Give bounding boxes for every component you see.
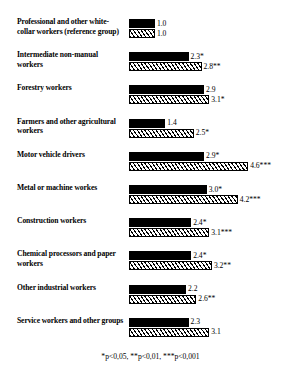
bar-hatched xyxy=(129,129,194,138)
bar-value-hatched: 2.5* xyxy=(196,128,209,138)
category-label: Farmers and other agricultural workers xyxy=(17,117,125,136)
chart-row: Intermediate non-manual workers2.3*2.8** xyxy=(0,50,301,83)
significance-footnote: *p<0,05, **p<0,01, ***p<0,001 xyxy=(0,352,301,361)
bar-value-hatched: 2.8** xyxy=(204,62,221,72)
bar-value-hatched: 4.2*** xyxy=(240,195,261,205)
bar-solid xyxy=(129,251,191,260)
chart-row: Service workers and other groups2.33.1 xyxy=(0,316,301,349)
bar-value-solid: 2.4* xyxy=(193,218,206,228)
bar-chart: Professional and other white-collar work… xyxy=(0,0,301,381)
bar-solid xyxy=(129,285,186,294)
bar-value-hatched: 3.1*** xyxy=(211,228,232,238)
bar-hatched xyxy=(129,62,202,71)
bar-value-solid: 2.3 xyxy=(191,317,201,327)
bar-value-hatched: 3.1 xyxy=(211,327,221,337)
bar-hatched xyxy=(129,162,248,171)
bar-value-hatched: 2.6** xyxy=(198,294,215,304)
chart-row: Metal or machine workes3.0*4.2*** xyxy=(0,183,301,216)
chart-row: Professional and other white-collar work… xyxy=(0,17,301,50)
category-label: Construction workers xyxy=(17,216,125,226)
bar-value-solid: 1.4 xyxy=(167,118,177,128)
bar-hatched xyxy=(129,261,212,270)
bar-value-solid: 2.2 xyxy=(188,284,198,294)
category-label: Motor vehicle drivers xyxy=(17,150,125,160)
bar-value-hatched: 4.6*** xyxy=(250,161,271,171)
chart-row: Other industrial workers2.22.6** xyxy=(0,283,301,316)
chart-row: Construction workers2.4*3.1*** xyxy=(0,216,301,249)
category-label: Chemical processors and paper workers xyxy=(17,249,125,268)
chart-row: Farmers and other agricultural workers1.… xyxy=(0,117,301,150)
chart-row: Forestry workers2.93.1* xyxy=(0,83,301,116)
bar-hatched xyxy=(129,29,155,38)
bar-value-solid: 2.9 xyxy=(206,85,216,95)
category-label: Intermediate non-manual workers xyxy=(17,50,125,69)
chart-row: Chemical processors and paper workers2.4… xyxy=(0,249,301,282)
bar-value-solid: 2.3* xyxy=(191,52,204,62)
category-label: Forestry workers xyxy=(17,83,125,93)
bar-solid xyxy=(129,185,207,194)
category-label: Metal or machine workes xyxy=(17,183,125,193)
bar-solid xyxy=(129,218,191,227)
bar-value-hatched: 3.2** xyxy=(214,261,231,271)
bar-value-solid: 2.9* xyxy=(206,151,219,161)
bar-solid xyxy=(129,119,165,128)
bar-solid xyxy=(129,85,204,94)
bar-solid xyxy=(129,152,204,161)
bar-hatched xyxy=(129,95,209,104)
bar-hatched xyxy=(129,295,196,304)
bar-hatched xyxy=(129,195,238,204)
category-label: Professional and other white-collar work… xyxy=(17,17,125,36)
chart-row: Motor vehicle drivers2.9*4.6*** xyxy=(0,150,301,183)
bar-value-solid: 1.0 xyxy=(157,19,167,29)
category-label: Other industrial workers xyxy=(17,283,125,293)
bar-hatched xyxy=(129,328,209,337)
category-label: Service workers and other groups xyxy=(17,316,125,326)
bar-value-hatched: 3.1* xyxy=(211,95,224,105)
bar-value-solid: 3.0* xyxy=(209,185,222,195)
bar-solid xyxy=(129,52,189,61)
bar-solid xyxy=(129,19,155,28)
bar-value-hatched: 1.0 xyxy=(157,29,167,39)
bar-hatched xyxy=(129,228,209,237)
bar-solid xyxy=(129,318,189,327)
bar-value-solid: 2.4* xyxy=(193,251,206,261)
